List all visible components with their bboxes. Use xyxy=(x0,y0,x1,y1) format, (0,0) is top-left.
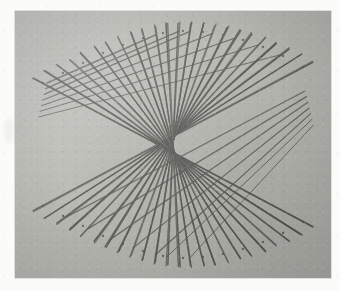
thread-group xyxy=(33,22,314,268)
string-art-figure xyxy=(15,11,331,278)
pin-point xyxy=(242,39,244,41)
pin-point xyxy=(122,44,124,46)
scan-smudge-left xyxy=(4,118,14,144)
pin-point xyxy=(242,248,244,250)
thread-line xyxy=(167,119,312,256)
thread-line xyxy=(66,91,305,217)
pin-point xyxy=(182,30,184,32)
pin-point xyxy=(42,82,44,84)
pin-point xyxy=(142,37,144,39)
pin-point xyxy=(262,241,264,243)
pin-point xyxy=(102,235,104,237)
pin-point xyxy=(162,32,164,34)
pin-point xyxy=(202,256,204,258)
pin-point xyxy=(222,253,224,255)
pin-point xyxy=(262,46,264,48)
pin-point xyxy=(62,72,64,74)
pin-point xyxy=(162,255,164,257)
pin-point xyxy=(122,243,124,245)
pin-point xyxy=(202,31,204,33)
pin-point xyxy=(102,52,104,54)
photograph-card xyxy=(15,11,331,278)
thread-line xyxy=(46,31,179,88)
pin-point xyxy=(62,215,64,217)
pin-point xyxy=(222,34,224,36)
pin-point xyxy=(182,257,184,259)
pin-point xyxy=(302,221,304,223)
pin-point xyxy=(282,232,284,234)
pin-point xyxy=(82,225,84,227)
thread-line xyxy=(88,97,306,229)
pin-point xyxy=(42,205,44,207)
pin-point xyxy=(142,250,144,252)
pin-point xyxy=(282,55,284,57)
scanned-page xyxy=(0,0,340,291)
pin-point xyxy=(82,62,84,64)
pin-point xyxy=(302,66,304,68)
